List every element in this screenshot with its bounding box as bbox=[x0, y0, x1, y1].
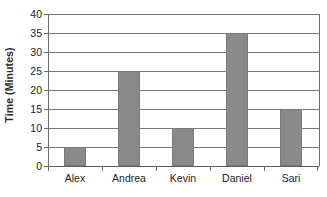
x-tick-mark bbox=[210, 166, 211, 171]
bar bbox=[226, 33, 248, 166]
y-axis-title-label: Time (Minutes) bbox=[3, 47, 15, 122]
x-axis-category-labels: AlexAndreaKevinDanielSari bbox=[48, 172, 318, 192]
y-tick-label: 20 bbox=[30, 84, 42, 96]
y-axis-tick-labels: 0510152025303540 bbox=[18, 0, 45, 197]
y-tick-label: 10 bbox=[30, 122, 42, 134]
x-tick-label: Sari bbox=[282, 172, 301, 184]
y-tick-label: 30 bbox=[30, 46, 42, 58]
x-tick-mark bbox=[264, 166, 265, 171]
x-tick-mark bbox=[48, 166, 49, 171]
x-tick-label: Andrea bbox=[112, 172, 146, 184]
x-tick-mark bbox=[156, 166, 157, 171]
y-tick-label: 5 bbox=[36, 141, 42, 153]
bars-layer bbox=[48, 14, 318, 166]
x-tick-mark bbox=[317, 166, 318, 171]
y-tick-label: 35 bbox=[30, 27, 42, 39]
bar bbox=[118, 71, 140, 166]
bar-chart: Time (Minutes) 0510152025303540 AlexAndr… bbox=[0, 0, 327, 197]
y-tick-label: 15 bbox=[30, 103, 42, 115]
y-axis-title: Time (Minutes) bbox=[0, 0, 18, 170]
x-tick-label: Daniel bbox=[222, 172, 252, 184]
bar bbox=[64, 147, 86, 166]
y-tick-label: 40 bbox=[30, 8, 42, 20]
x-tick-label: Alex bbox=[65, 172, 85, 184]
bar bbox=[172, 128, 194, 166]
x-tick-label: Kevin bbox=[170, 172, 196, 184]
y-tick-label: 0 bbox=[36, 160, 42, 172]
bar bbox=[280, 109, 302, 166]
y-tick-label: 25 bbox=[30, 65, 42, 77]
x-tick-mark bbox=[102, 166, 103, 171]
